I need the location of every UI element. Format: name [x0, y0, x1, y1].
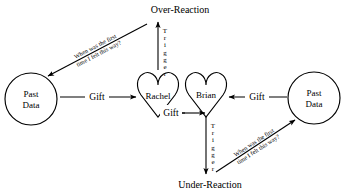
label-past-data-right-line2: Data	[306, 99, 323, 109]
node-past-data-left-circle	[5, 73, 57, 125]
label-question-bottom-right: When was the first time I felt this way?	[231, 126, 281, 166]
label-trigger-top: Trigger	[163, 27, 168, 78]
node-past-data-right-circle	[288, 72, 340, 124]
label-gift-middle: Gift	[163, 108, 179, 118]
label-past-data-left-line1: Past	[23, 89, 39, 99]
label-brian: Brian	[196, 90, 216, 100]
label-trigger-bottom: Trigger	[211, 122, 216, 173]
label-gift-left: Gift	[89, 92, 105, 102]
label-rachel: Rachel	[146, 91, 171, 101]
label-under-reaction: Under-Reaction	[178, 179, 242, 190]
diagram-svg: Over-Reaction Under-Reaction Past Data P…	[0, 0, 347, 193]
trigger-bottom-char-6: r	[212, 165, 215, 173]
label-question-top-left: When was the first time I felt this way?	[71, 31, 122, 67]
trigger-top-char-6: r	[164, 70, 167, 78]
label-over-reaction: Over-Reaction	[151, 4, 210, 15]
label-gift-right: Gift	[249, 92, 265, 102]
label-past-data-right-line1: Past	[306, 88, 322, 98]
label-past-data-left-line2: Data	[23, 100, 40, 110]
diagram-canvas: Over-Reaction Under-Reaction Past Data P…	[0, 0, 347, 193]
